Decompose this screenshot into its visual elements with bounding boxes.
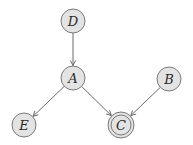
directed-graph-diagram: DABEC [0, 0, 193, 145]
node-label: D [67, 14, 79, 29]
node-d: D [61, 9, 85, 33]
edge-a-to-c [82, 86, 112, 115]
node-b: B [157, 67, 181, 91]
nodes-layer: DABEC [12, 9, 181, 138]
node-label: A [67, 71, 77, 86]
edge-line [82, 86, 112, 115]
edge-line [33, 86, 64, 116]
edge-a-to-e [33, 86, 64, 116]
edge-line [131, 87, 161, 115]
node-label: E [18, 118, 29, 133]
edges-layer [33, 33, 160, 116]
node-a: A [61, 66, 85, 90]
node-c: C [108, 112, 134, 138]
node-e: E [12, 113, 36, 137]
node-label: C [116, 118, 126, 133]
edge-d-to-a [70, 33, 75, 66]
edge-b-to-c [131, 87, 161, 115]
node-label: B [163, 72, 174, 87]
